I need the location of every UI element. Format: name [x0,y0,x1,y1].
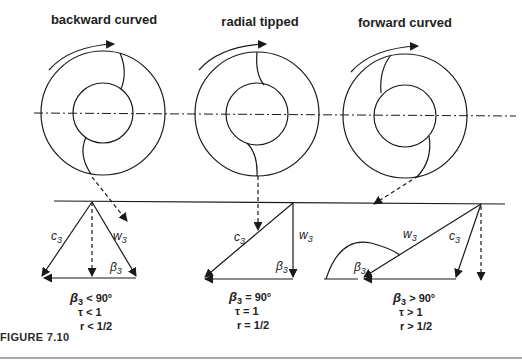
blade-tip-reference-line [54,201,505,204]
condition-r: r = 1/2 [237,319,269,331]
condition-beta: β3 < 90° [69,290,112,307]
vector-label-c3: c3 [51,229,62,245]
panel-title-forward: forward curved [358,15,452,30]
vector-label-c3: c3 [449,229,460,245]
condition-r: r < 1/2 [80,320,112,332]
panel-title-backward: backward curved [51,12,157,27]
vector-label-w3: w3 [113,229,127,245]
dashed-connector-arrow [92,177,127,221]
rotation-arrow-icon [49,44,114,70]
condition-tau: τ > 1 [399,306,423,318]
condition-r: r > 1/2 [400,320,432,332]
condition-tau: τ = 1 [235,305,259,317]
angle-label-beta3: β3 [275,259,288,275]
angle-label-beta3: β3 [109,260,122,276]
condition-beta: β3 > 90° [392,290,435,307]
angle-label-beta3: β3 [353,260,366,276]
center-axis-line [34,113,516,116]
impeller-blade-diagram: backward curved radial tipped forward cu… [0,0,522,361]
figure-caption: FIGURE 7.10 [0,331,69,343]
vector-label-c3: c3 [234,230,245,246]
dashed-connector-arrow [374,176,418,204]
vector-label-w3: w3 [403,227,417,243]
panel-title-radial: radial tipped [221,14,298,29]
rotation-arrow-icon [351,46,418,72]
condition-tau: τ < 1 [78,306,102,318]
vector-label-w3: w3 [299,228,313,244]
condition-beta: β3 = 90° [228,289,271,306]
